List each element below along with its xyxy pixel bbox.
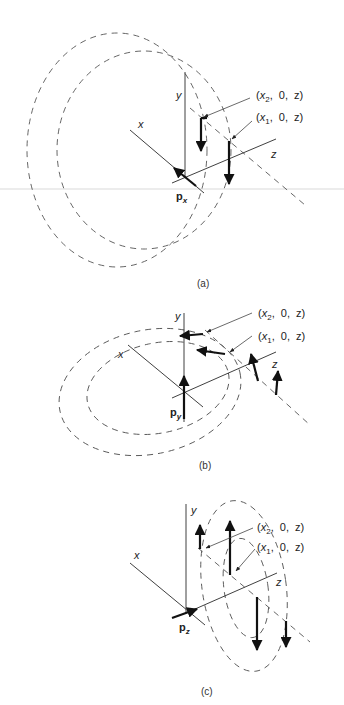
callout-x1: (x1, 0, z): [258, 330, 305, 345]
panel-c: y x z pz (x2, 0, z) (x1, 0, z) (c): [130, 495, 310, 697]
axis-label-x: x: [133, 549, 140, 561]
vector-label-py: py: [170, 406, 182, 421]
vector-label-px: px: [176, 190, 188, 205]
z-axis: [186, 573, 277, 613]
callout-x2: (x2, 0, z): [257, 521, 304, 536]
x-axis: [128, 345, 203, 407]
panel-b: y x z py (x2, 0, z) (x1, 0, z) (b): [47, 307, 310, 472]
axis-label-z: z: [275, 576, 282, 588]
callout-leader-x1: [236, 549, 255, 571]
callout-x1: (x1, 0, z): [256, 111, 303, 126]
axis-label-y: y: [190, 504, 198, 516]
pz-vector: [172, 609, 197, 618]
field-loop-outer: [47, 312, 253, 472]
axis-label-z: z: [270, 148, 277, 160]
field-vector-outer-loop: [276, 371, 278, 395]
axis-label-z: z: [271, 358, 278, 370]
callout-leader-x2: [207, 313, 252, 332]
caption-b: (b): [199, 460, 211, 471]
axis-label-x: x: [137, 118, 144, 130]
field-loop-inner: [57, 51, 231, 249]
caption-a: (a): [197, 278, 209, 289]
callout-leader-x2: [204, 98, 250, 117]
callout-leader-x1: [232, 121, 252, 139]
caption-c: (c): [201, 686, 213, 697]
axis-label-y: y: [174, 310, 182, 322]
vector-label-pz: pz: [179, 621, 190, 636]
callout-x1: (x1, 0, z): [257, 541, 304, 556]
field-loop-inner: [78, 329, 238, 447]
x-axis: [130, 563, 205, 625]
z-axis: [172, 352, 276, 398]
field-vector-x2: [180, 334, 203, 336]
field-vector-inner-loop: [251, 354, 258, 381]
callout-leader-x1: [230, 336, 252, 352]
callout-x2: (x2, 0, z): [256, 89, 303, 104]
panel-a: y x z px (x2, 0, z) (x1, 0, z) (a): [27, 33, 305, 289]
figure-canvas: y x z px (x2, 0, z) (x1, 0, z) (a) y x z…: [0, 0, 344, 705]
axis-label-y: y: [175, 89, 183, 101]
guide-line: [198, 548, 310, 642]
field-loop-outer: [27, 33, 207, 267]
callout-x2: (x2, 0, z): [258, 307, 305, 322]
axis-label-x: x: [117, 348, 124, 360]
z-axis: [172, 139, 276, 183]
